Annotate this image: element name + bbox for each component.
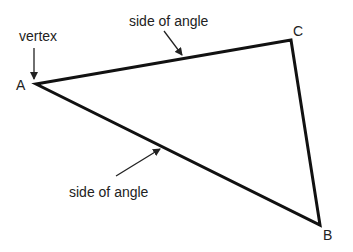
- vertex-annotation: vertex: [19, 28, 57, 44]
- vertex-label-c: C: [293, 23, 303, 39]
- side-top-arrow-icon: [164, 31, 182, 55]
- angle-diagram: A B C vertex side of angle side of angle: [0, 0, 353, 252]
- side-bottom-arrow-icon: [116, 149, 160, 176]
- vertex-label-b: B: [323, 227, 332, 243]
- vertex-label-a: A: [16, 77, 26, 93]
- side-bottom-annotation: side of angle: [69, 184, 149, 200]
- side-top-annotation: side of angle: [129, 13, 209, 29]
